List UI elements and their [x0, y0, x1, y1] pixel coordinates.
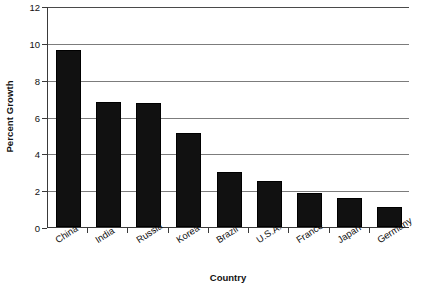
x-tick-mark — [208, 228, 209, 233]
y-tick-label: 8 — [0, 75, 40, 86]
x-axis-title: Country — [47, 272, 409, 283]
x-tick-mark — [288, 228, 289, 233]
x-tick-mark — [248, 228, 249, 233]
bar-chart: Percent Growth 024681012 ChinaIndiaRussi… — [0, 0, 423, 290]
x-tick-mark — [127, 228, 128, 233]
x-tick-mark — [168, 228, 169, 233]
bar-india[interactable] — [96, 102, 121, 227]
bar-korea[interactable] — [176, 133, 201, 227]
plot-area — [47, 7, 409, 228]
bars-layer — [48, 7, 409, 227]
bar-brazil[interactable] — [217, 172, 242, 227]
y-tick-label: 2 — [0, 186, 40, 197]
x-tick-mark — [87, 228, 88, 233]
y-tick-label: 0 — [0, 223, 40, 234]
y-tick-label: 4 — [0, 149, 40, 160]
y-tick-mark — [42, 228, 47, 229]
y-tick-label: 10 — [0, 38, 40, 49]
bar-russia[interactable] — [136, 103, 161, 227]
y-tick-label: 12 — [0, 2, 40, 13]
bar-japan[interactable] — [337, 198, 362, 227]
x-tick-mark — [369, 228, 370, 233]
x-tick-mark — [329, 228, 330, 233]
y-tick-label: 6 — [0, 112, 40, 123]
bar-u-s-a[interactable] — [257, 181, 282, 227]
bar-china[interactable] — [56, 50, 81, 227]
